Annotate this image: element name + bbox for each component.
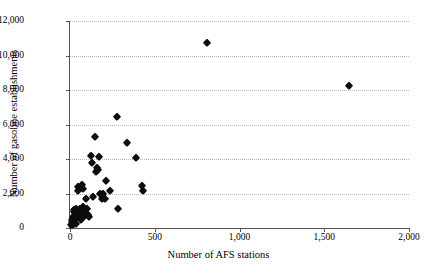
- gridline-y: [70, 159, 409, 160]
- data-point: [91, 133, 100, 142]
- gridline-y: [70, 90, 409, 91]
- y-axis-tick-label: 2,000: [3, 189, 24, 199]
- y-axis-tick: [66, 125, 70, 126]
- y-axis-tick: [66, 21, 70, 22]
- y-axis-tick-label: 10,000: [0, 51, 24, 61]
- scatter-chart-figure: Number of AFS stations Number of gasolin…: [0, 0, 437, 273]
- gridline-y: [70, 194, 409, 195]
- y-axis-tick: [66, 159, 70, 160]
- y-axis-tick: [66, 56, 70, 57]
- y-axis-tick-label: 6,000: [3, 120, 24, 130]
- data-point: [102, 176, 111, 185]
- x-axis-tick-label: 500: [148, 233, 162, 243]
- x-axis-tick-label: 2,000: [398, 233, 419, 243]
- plot-area: [70, 21, 409, 228]
- data-point: [113, 205, 122, 214]
- data-point: [95, 153, 104, 162]
- data-point: [112, 113, 121, 122]
- data-point: [122, 139, 131, 148]
- y-axis-tick: [66, 194, 70, 195]
- y-axis-tick-label: 8,000: [3, 85, 24, 95]
- x-axis-tick-label: 0: [68, 233, 73, 243]
- y-axis-tick: [66, 90, 70, 91]
- gridline-y: [70, 125, 409, 126]
- y-axis-tick-label: 12,000: [0, 16, 24, 26]
- x-axis-tick-label: 1,000: [229, 233, 250, 243]
- data-point: [131, 154, 140, 163]
- data-point: [202, 38, 211, 47]
- gridline-y: [70, 21, 409, 22]
- gridline-y: [70, 56, 409, 57]
- y-axis-tick-label: 4,000: [3, 154, 24, 164]
- x-axis-title: Number of AFS stations: [0, 249, 437, 260]
- y-axis-tick-label: 0: [19, 223, 24, 233]
- x-axis-tick-label: 1,500: [314, 233, 335, 243]
